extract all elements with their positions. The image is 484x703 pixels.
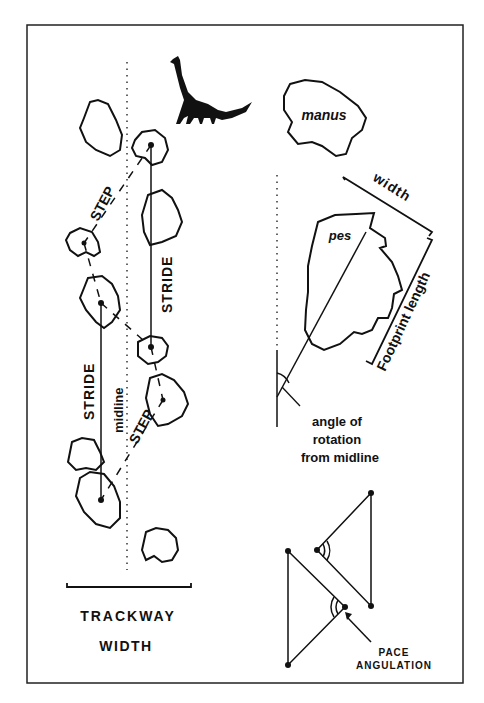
footprints xyxy=(66,100,188,562)
footprint xyxy=(142,190,182,245)
width-label: width xyxy=(370,168,415,204)
stride-label-right: STRIDE xyxy=(159,256,175,313)
pes-footprint xyxy=(305,213,402,350)
trackway-width-bracket xyxy=(67,583,191,587)
trackway-diagram: STEP STEP STRIDE STRIDE midline TRACKWAY… xyxy=(0,0,484,703)
stride-label-left: STRIDE xyxy=(81,363,97,420)
step-label-upper: STEP xyxy=(87,184,118,224)
pace-angulation-diagram xyxy=(288,493,371,665)
footprint xyxy=(68,438,104,470)
angle-label-line2: rotation xyxy=(313,432,361,447)
footprint xyxy=(80,100,122,156)
pace-label-line1: PACE xyxy=(378,647,409,658)
angle-pointer-line xyxy=(282,387,300,406)
manus-label: manus xyxy=(301,107,346,123)
trackway-label: TRACKWAY xyxy=(80,608,176,624)
step-label-lower: STEP xyxy=(126,407,157,447)
track-centers xyxy=(82,142,166,503)
pace-vertices xyxy=(285,490,374,668)
angle-label-line1: angle of xyxy=(312,414,363,429)
pes-axis-line xyxy=(277,232,366,397)
pes-label: pes xyxy=(328,228,351,243)
width-label-bottom: WIDTH xyxy=(99,638,152,654)
figure-frame xyxy=(27,25,463,683)
sauropod-silhouette-icon xyxy=(170,56,252,124)
angle-label-line3: from midline xyxy=(301,450,379,465)
footprint xyxy=(142,528,178,562)
pace-label-line2: ANGULATION xyxy=(356,660,432,671)
footprint-length-label: Footprint length xyxy=(373,269,433,373)
midline-label: midline xyxy=(111,387,126,433)
